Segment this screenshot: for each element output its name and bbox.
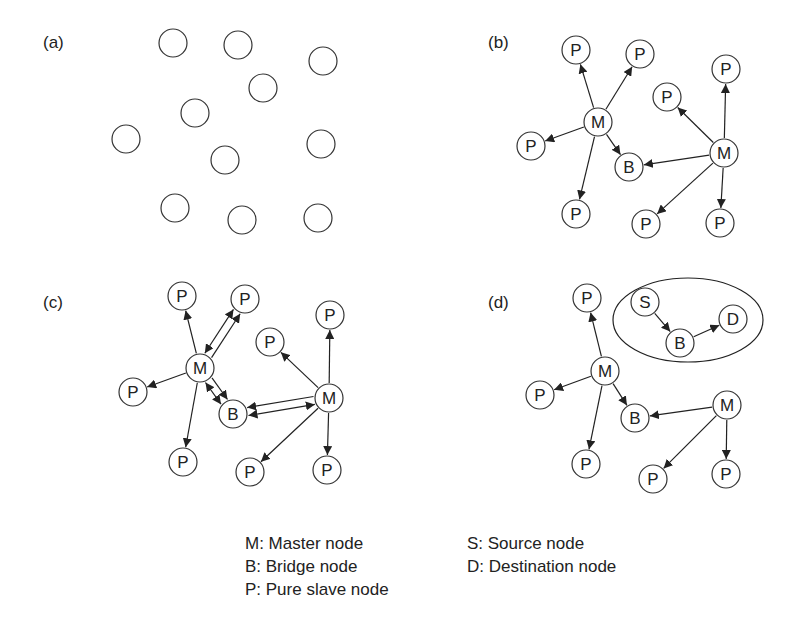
svg-text:P: P [127,383,138,402]
pure-slave-node: P [169,448,197,476]
svg-text:P: P [177,453,188,472]
pure-slave-node: P [256,328,284,356]
svg-text:B: B [629,409,640,428]
pure-slave-node: P [712,55,740,83]
unassigned-node [159,29,187,57]
edge-arrow [329,330,330,383]
svg-text:M: M [322,389,336,408]
master-node: M [713,391,741,419]
svg-text:P: P [324,306,335,325]
pure-slave-node: P [572,450,600,478]
source-node: S [631,288,659,316]
svg-text:M: M [720,396,734,415]
master-node: M [584,108,612,136]
edge-arrow [606,67,632,109]
legend-bridge: B: Bridge node [245,555,389,578]
edge-arrow [655,313,671,331]
pure-slave-node: P [632,210,660,238]
svg-text:P: P [244,463,255,482]
edge-arrow [724,84,725,138]
pure-slave-node: P [313,456,341,484]
edge-arrow [212,378,228,400]
unassigned-node [307,130,335,158]
pure-slave-node: P [626,40,654,68]
pure-slave-node: P [639,465,667,493]
pure-slave-node: P [168,282,196,310]
edge-arrow [664,416,717,469]
svg-text:P: P [534,386,545,405]
master-node: M [186,354,214,382]
edge-arrow [205,383,221,405]
svg-text:P: P [720,465,731,484]
edge-arrow [591,313,602,357]
edge-arrow [261,408,318,461]
svg-text:M: M [591,113,605,132]
pure-slave-node: P [236,458,264,486]
edge-arrow [613,384,627,406]
edge-arrow [579,137,594,200]
edge-arrow [580,64,593,107]
svg-text:P: P [525,137,536,156]
edge-arrow [554,376,591,390]
pure-slave-node: P [573,284,601,312]
svg-text:P: P [570,41,581,60]
svg-text:P: P [714,214,725,233]
legend-right: S: Source node D: Destination node [467,532,616,578]
network-diagram: PPMPBPPPMPPPPMPBPPPMPPPSBDMPBMPPP (a)(b)… [0,0,789,626]
pure-slave-node: P [119,378,147,406]
edge-arrow [186,383,198,447]
legend-destination: D: Destination node [467,555,616,578]
destination-node: D [719,305,747,333]
svg-text:P: P [176,287,187,306]
master-node: M [591,357,619,385]
edge-arrow [644,155,709,165]
edge-arrow [147,373,186,387]
legend-left: M: Master node B: Bridge node P: Pure sl… [245,532,389,601]
svg-text:P: P [581,289,592,308]
edge-arrow [607,134,621,154]
edge-arrow [589,386,602,450]
bridge-node: B [219,400,247,428]
pure-slave-node: P [712,460,740,488]
unassigned-node [309,47,337,75]
svg-text:P: P [634,45,645,64]
svg-text:M: M [598,362,612,381]
panel-label: (a) [43,33,64,52]
svg-text:B: B [674,334,685,353]
edge-arrow [726,420,727,459]
edge-arrow [327,413,328,455]
unassigned-node [112,125,140,153]
edge-arrow [281,352,318,387]
pure-slave-node: P [316,301,344,329]
unassigned-node [161,194,189,222]
svg-text:P: P [647,470,658,489]
legend-master: M: Master node [245,532,389,555]
pure-slave-node: P [517,132,545,160]
svg-text:M: M [717,144,731,163]
pure-slave-node: P [653,83,681,111]
pure-slave-node: P [231,285,259,313]
bridge-node: B [621,404,649,432]
pure-slave-node: P [562,200,590,228]
bridge-node: B [615,153,643,181]
svg-text:P: P [239,290,250,309]
svg-text:P: P [661,88,672,107]
edge-arrow [694,325,720,337]
pure-slave-node: P [526,381,554,409]
svg-text:B: B [227,405,238,424]
panel-label: (b) [488,33,509,52]
edge-arrow [186,311,197,354]
edge-arrow [721,168,723,208]
legend-pure-slave: P: Pure slave node [245,578,389,601]
unassigned-node [249,74,277,102]
pure-slave-node: P [562,36,590,64]
svg-text:B: B [623,158,634,177]
master-node: M [710,139,738,167]
panel-labels: (a)(b)(c)(d) [43,33,509,312]
edge-arrow [650,407,712,416]
svg-text:P: P [580,455,591,474]
panel-label: (c) [43,293,63,312]
unassigned-node [228,206,256,234]
edge-arrow [657,163,713,214]
unassigned-node [224,31,252,59]
